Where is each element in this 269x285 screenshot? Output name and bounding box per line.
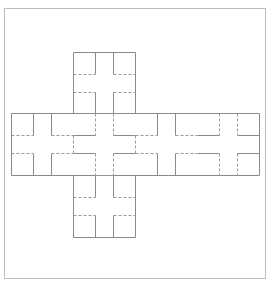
cube-net-diagram xyxy=(0,0,269,285)
